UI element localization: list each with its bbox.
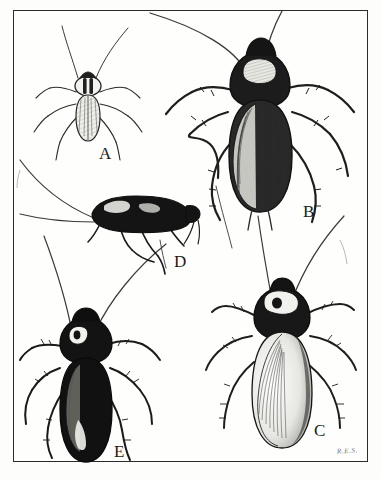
plate-border-frame [13,10,368,462]
illustration-plate: A B C D E R.E.S. [0,0,381,479]
figure-label-d: D [174,253,187,270]
figure-label-b: B [303,203,315,220]
figure-label-e: E [114,443,125,460]
figure-label-c: C [314,422,326,439]
artist-signature: R.E.S. [337,446,358,455]
figure-label-a: A [99,145,112,162]
